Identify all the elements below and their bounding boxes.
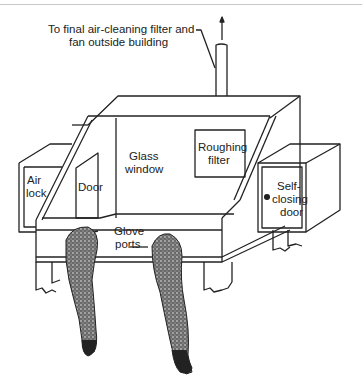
exhaust-pipe [216,17,227,96]
exhaust-label-line2: fan outside building [69,36,168,49]
glove-label-line1: Glove [114,225,144,238]
airlock-label-line2: lock [26,187,46,200]
door-handle-icon [265,195,270,200]
glove-label-line2: ports [115,238,141,251]
exhaust-leader-line [196,30,215,68]
glove-box-diagram [0,0,362,383]
hood-top [72,96,300,205]
door-label: Door [78,181,103,194]
glass-label-line2: window [125,163,163,176]
roughing-label-line2: filter [208,154,230,167]
roughing-label-line1: Roughing [198,141,247,154]
glove-left [66,227,98,356]
selfclosing-label-line3: door [280,206,303,219]
selfclosing-label-line2: closing [272,193,308,206]
airlock-label-line1: Air [27,174,41,187]
selfclosing-label-line1: Self- [277,180,301,193]
glass-label-line1: Glass [129,150,158,163]
glove-right [152,234,192,374]
exhaust-label-line1: To final air-cleaning filter and [48,23,194,36]
